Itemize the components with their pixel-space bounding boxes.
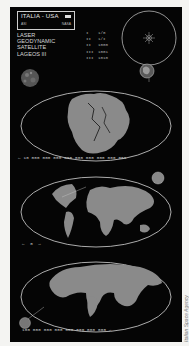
map-present-world: [21, 172, 171, 247]
poster-panel: ITALIA - USA ASI NASA LASER GEODYNAMIC S…: [10, 7, 182, 342]
arrow-left-icon: ←: [22, 242, 25, 246]
credit-caption: Italian Space Agency: [183, 295, 189, 342]
moon-icon: [20, 318, 31, 329]
arrow-right-icon: →: [109, 328, 112, 332]
future-scale-text: 100 000 000 000 000 000 000 000: [22, 328, 106, 332]
sun-icon: [143, 32, 155, 44]
map-pangaea: [21, 91, 171, 161]
map-future-world: [20, 262, 172, 332]
arrow-right-icon: →: [38, 242, 41, 246]
moon-icon: [152, 172, 164, 184]
present-marker: 0: [30, 242, 33, 246]
orbit-diagram: [122, 11, 176, 82]
moon-icon: [21, 69, 39, 87]
present-timeline: ← 0 →: [22, 242, 41, 246]
illustration: [10, 7, 182, 342]
past-timeline: ← 10 000 000 000 000 000 000 000 000 000: [18, 156, 127, 160]
future-timeline: 100 000 000 000 000 000 000 000 →: [22, 328, 112, 332]
arrow-left-icon: ←: [18, 156, 21, 160]
past-scale-text: 10 000 000 000 000 000 000 000 000 000: [23, 156, 126, 160]
